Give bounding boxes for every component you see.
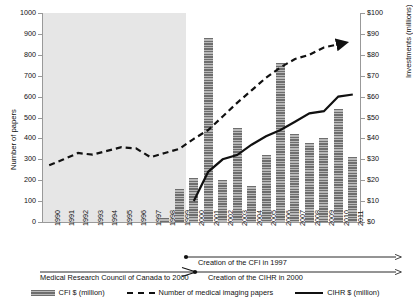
y-axis-left-title: Number of papers	[9, 109, 18, 170]
x-axis-tick-label: 1994	[110, 210, 119, 226]
solid-line-swatch-icon	[295, 292, 323, 294]
y-axis-right-tick-label: $80	[367, 51, 401, 59]
y-axis-right-tick-label: $50	[367, 114, 401, 122]
y-axis-left-tick-mark	[38, 55, 42, 56]
y-axis-right-tick-label: $90	[367, 30, 401, 38]
x-axis-tick-label: 1995	[125, 210, 134, 226]
bar-cfi-2005	[262, 155, 271, 222]
legend-item-cihr: CIHR $ (million)	[295, 288, 379, 297]
y-axis-right-tick-label: $10	[367, 197, 401, 205]
bar-cfi-2008	[305, 143, 314, 222]
y-axis-left-tick-label: 100	[6, 197, 36, 205]
y-axis-left-tick-mark	[38, 201, 42, 202]
y-axis-left-line	[42, 13, 43, 223]
y-axis-right-tick-mark	[361, 138, 365, 139]
x-axis-tick-label: 1996	[139, 210, 148, 226]
y-axis-left-tick-mark	[38, 159, 42, 160]
y-axis-left-tick-mark	[38, 34, 42, 35]
y-axis-left-tick-mark	[38, 13, 42, 14]
y-axis-left-tick-label: 700	[6, 72, 36, 80]
y-axis-left-tick-mark	[38, 97, 42, 98]
annotation-mrc-to-2000: Medical Research Council of Canada to 20…	[40, 273, 189, 282]
bar-cfi-2010	[334, 109, 343, 222]
legend-label-cihr: CIHR $ (million)	[327, 288, 379, 297]
dashed-line-swatch-icon	[127, 292, 155, 294]
bar-cfi-1999	[175, 189, 184, 222]
x-axis-tick-label: 1991	[67, 210, 76, 226]
y-axis-right-tick-label: $60	[367, 93, 401, 101]
y-axis-right-tick-label: $100	[367, 9, 401, 17]
bar-swatch-icon	[31, 290, 55, 296]
legend-label-papers: Number of medical imaging papers	[159, 288, 274, 297]
y-axis-left-tick-mark	[38, 76, 42, 77]
y-axis-right-tick-mark	[361, 13, 365, 14]
y-axis-left-tick-label: 0	[6, 218, 36, 226]
cihr-timeline-start-dot	[193, 270, 197, 274]
y-axis-right-tick-mark	[361, 201, 365, 202]
y-axis-left-tick-mark	[38, 222, 42, 223]
y-axis-right-tick-label: $40	[367, 134, 401, 142]
bar-cfi-2007	[290, 134, 299, 222]
cfi-timeline-start-dot	[184, 255, 188, 259]
bar-cfi-2009	[319, 138, 328, 222]
annotation-cihr-2000: Creation of the CIHR in 2000	[208, 273, 303, 282]
y-axis-right-tick-label: $30	[367, 155, 401, 163]
x-axis-tick-label: 1993	[96, 210, 105, 226]
y-axis-left-tick-label: 600	[6, 93, 36, 101]
bar-cfi-2006	[276, 63, 285, 222]
y-axis-right-tick-label: $70	[367, 72, 401, 80]
y-axis-right-tick-mark	[361, 55, 365, 56]
y-axis-left-tick-label: 800	[6, 51, 36, 59]
x-axis-tick-label: 1992	[81, 210, 90, 226]
legend-item-cfi: CFI $ (million)	[31, 288, 105, 297]
y-axis-right-tick-mark	[361, 97, 365, 98]
y-axis-right-tick-label: $20	[367, 176, 401, 184]
bar-cfi-2002	[218, 180, 227, 222]
y-axis-left-tick-label: 200	[6, 176, 36, 184]
legend-item-papers: Number of medical imaging papers	[127, 288, 274, 297]
legend-label-cfi: CFI $ (million)	[59, 288, 105, 297]
bar-cfi-2003	[233, 128, 242, 222]
y-axis-left-tick-label: 900	[6, 30, 36, 38]
y-axis-left-tick-mark	[38, 138, 42, 139]
x-axis-tick-label: 1990	[53, 210, 62, 226]
y-axis-left-tick-label: 1000	[6, 9, 36, 17]
y-axis-right-tick-mark	[361, 180, 365, 181]
bar-cfi-2001	[204, 38, 213, 222]
y-axis-right-tick-mark	[361, 76, 365, 77]
bar-cfi-2000	[189, 178, 198, 222]
y-axis-right-tick-mark	[361, 118, 365, 119]
y-axis-left-tick-mark	[38, 118, 42, 119]
bar-cfi-2011	[348, 157, 357, 222]
bar-cfi-1998	[160, 218, 169, 222]
chart-legend: CFI $ (million) Number of medical imagin…	[0, 288, 410, 297]
y-axis-right-title: Investments (millions)	[404, 5, 413, 78]
annotation-cfi-1997: Creation of the CFI in 1997	[198, 258, 287, 267]
x-axis-tick-label: 2011	[356, 211, 365, 226]
shaded-region-pre-2000	[42, 13, 186, 222]
y-axis-right-tick-label: $0	[367, 218, 401, 226]
y-axis-right-tick-mark	[361, 34, 365, 35]
y-axis-right-tick-mark	[361, 159, 365, 160]
y-axis-left-tick-mark	[38, 180, 42, 181]
bar-cfi-2004	[247, 186, 256, 222]
